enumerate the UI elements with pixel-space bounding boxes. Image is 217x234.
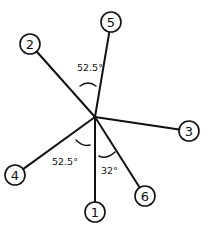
spokes: [23, 32, 179, 202]
node-label: 6: [141, 189, 149, 204]
node-label: 3: [185, 124, 193, 139]
spoke-3: [95, 117, 179, 130]
node-1: 1: [85, 202, 105, 222]
node-4: 4: [5, 165, 25, 185]
angle-arc-2-5: [80, 83, 96, 86]
spoke-6: [95, 117, 140, 188]
node-6: 6: [135, 186, 155, 206]
angle-arc-1-6: [99, 152, 115, 157]
spoke-5: [95, 32, 109, 117]
node-label: 4: [11, 168, 19, 183]
angle-label-2-5: 52.5°: [77, 62, 103, 73]
spoke-diagram: 52.5°52.5°32° 123456: [0, 0, 217, 234]
angle-label-1-6: 32°: [101, 165, 118, 176]
angle-label-4-1: 52.5°: [52, 156, 78, 167]
node-5: 5: [101, 12, 121, 32]
node-2: 2: [20, 34, 40, 54]
angle-arc-4-1: [76, 140, 90, 145]
node-label: 1: [91, 205, 99, 220]
node-3: 3: [179, 121, 199, 141]
node-label: 5: [107, 15, 115, 30]
node-label: 2: [26, 37, 34, 52]
nodes: 123456: [5, 12, 199, 222]
